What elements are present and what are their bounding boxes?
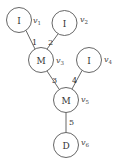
- node-v4: I v4: [77, 48, 113, 73]
- node-label: v3: [56, 56, 65, 66]
- edge-label-2: 2: [48, 38, 53, 47]
- edge-label-4: 4: [72, 76, 77, 85]
- node-v3: M v3: [29, 48, 65, 73]
- node-v6: D v6: [54, 133, 90, 158]
- node-symbol: M: [36, 56, 45, 66]
- node-symbol: M: [61, 96, 70, 106]
- node-label: v1: [33, 16, 41, 26]
- node-symbol: I: [87, 56, 91, 66]
- node-symbol: I: [17, 16, 21, 26]
- node-label: v6: [81, 138, 90, 148]
- node-symbol: D: [62, 141, 69, 151]
- node-label: v5: [81, 95, 90, 105]
- edge-label-3: 3: [52, 76, 57, 85]
- edge-label-5: 5: [69, 118, 74, 127]
- node-symbol: I: [63, 19, 67, 29]
- node-v1: I v1: [7, 8, 42, 33]
- node-v2: I v2: [52, 11, 88, 36]
- node-v5: M v5: [54, 88, 90, 113]
- node-label: v2: [80, 15, 88, 25]
- edge-label-1: 1: [32, 38, 37, 47]
- diagram-svg: 1 2 3 4 5 I v1 I v2 M v3 I v4 M: [0, 0, 117, 163]
- dataflow-diagram: 1 2 3 4 5 I v1 I v2 M v3 I v4 M: [0, 0, 117, 163]
- node-label: v4: [104, 55, 113, 65]
